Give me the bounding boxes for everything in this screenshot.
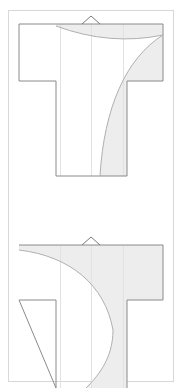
pattern-diagram-root (0, 0, 184, 388)
pattern-diagram-svg (0, 0, 184, 388)
